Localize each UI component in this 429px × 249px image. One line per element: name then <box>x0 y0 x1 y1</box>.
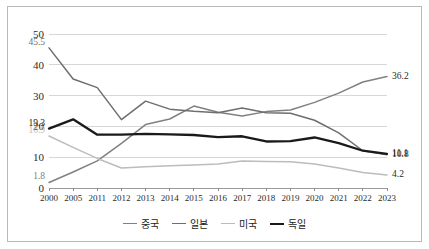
legend-label: 일본 <box>190 216 208 231</box>
x-tick-2020: 2020 <box>306 194 324 203</box>
x-tick-2011: 2011 <box>88 194 106 203</box>
line-chart-svg <box>49 34 387 188</box>
chart-figure: 01020304050 2000200520112012201320142015… <box>0 0 429 249</box>
legend-line-icon-독일 <box>270 223 284 225</box>
legend-item-독일[interactable]: 독일 <box>270 216 306 231</box>
x-tick-2017: 2017 <box>233 194 251 203</box>
legend-label: 중국 <box>141 216 159 231</box>
x-tick-2022: 2022 <box>354 194 372 203</box>
y-tick-0: 0 <box>39 183 50 194</box>
plot-area: 01020304050 2000200520112012201320142015… <box>49 34 387 188</box>
legend-line-icon-일본 <box>172 223 186 224</box>
chart-legend: 중국일본미국독일 <box>8 216 421 231</box>
x-tick-2014: 2014 <box>161 194 179 203</box>
x-tick-2019: 2019 <box>281 194 299 203</box>
chart-frame: 01020304050 2000200520112012201320142015… <box>7 6 422 242</box>
start-label-중국: 1.8 <box>33 173 45 183</box>
legend-item-미국[interactable]: 미국 <box>221 216 257 231</box>
legend-line-icon-중국 <box>123 223 137 224</box>
x-tick-2000: 2000 <box>40 194 58 203</box>
start-label-일본: 45.5 <box>28 38 45 48</box>
start-label-독일: 19.3 <box>28 119 45 129</box>
y-tick-10: 10 <box>33 152 49 163</box>
x-tick-2016: 2016 <box>209 194 227 203</box>
x-tick-2013: 2013 <box>137 194 155 203</box>
legend-label: 미국 <box>239 216 257 231</box>
x-tick-2023: 2023 <box>378 194 396 203</box>
legend-label: 독일 <box>288 216 306 231</box>
legend-item-중국[interactable]: 중국 <box>123 216 159 231</box>
end-label-미국: 4.2 <box>392 170 404 180</box>
x-tick-2021: 2021 <box>330 194 348 203</box>
x-tick-2005: 2005 <box>64 194 82 203</box>
y-tick-30: 30 <box>33 90 49 101</box>
x-tick-2015: 2015 <box>185 194 203 203</box>
legend-line-icon-미국 <box>221 223 235 224</box>
x-tick-2012: 2012 <box>112 194 130 203</box>
y-tick-40: 40 <box>33 59 49 70</box>
end-label-중국: 36.2 <box>392 72 409 82</box>
end-label-독일: 11.1 <box>392 149 408 159</box>
x-tick-2018: 2018 <box>257 194 275 203</box>
legend-item-일본[interactable]: 일본 <box>172 216 208 231</box>
